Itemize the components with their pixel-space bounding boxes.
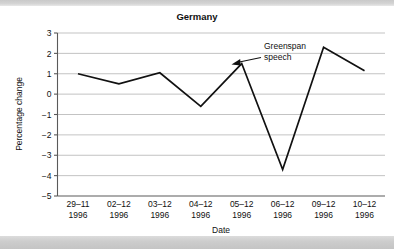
line-chart: Germany 3210−1−2−3−4−5 29–11199602–12199… xyxy=(0,0,394,249)
x-axis-title: Date xyxy=(212,225,230,235)
x-tick-label-year: 1996 xyxy=(314,210,333,220)
y-tick-label: 3 xyxy=(47,28,52,38)
annotation-arrow-shaft xyxy=(237,58,261,63)
y-tick-label: 1 xyxy=(47,69,52,79)
x-tick-label-year: 1996 xyxy=(232,210,251,220)
y-tick-label: 2 xyxy=(47,49,52,59)
y-axis-title: Percentage change xyxy=(14,77,24,151)
data-series-line xyxy=(78,47,365,169)
x-tick-labels-group: 29–11199602–12199603–12199604–12199605–1… xyxy=(66,199,376,220)
x-tick-label-year: 1996 xyxy=(69,210,88,220)
y-tick-label: −5 xyxy=(42,191,52,201)
y-tick-label: −4 xyxy=(42,171,52,181)
x-tick-label-date: 02–12 xyxy=(107,199,131,209)
x-tick-label-year: 1996 xyxy=(150,210,169,220)
annotation-arrow-head xyxy=(232,59,241,66)
y-tick-label: −2 xyxy=(42,130,52,140)
x-tick-label-date: 29–11 xyxy=(66,199,89,209)
annotation-text-line-1: Greenspan xyxy=(264,41,306,51)
x-tick-label-date: 09–12 xyxy=(312,199,336,209)
chart-figure: Germany 3210−1−2−3−4−5 29–11199602–12199… xyxy=(0,0,394,249)
x-tick-label-year: 1996 xyxy=(273,210,292,220)
chart-title: Germany xyxy=(176,11,218,22)
y-tick-label: −1 xyxy=(42,110,52,120)
annotation-text-line-2: speech xyxy=(264,52,292,62)
x-tick-label-date: 05–12 xyxy=(230,199,254,209)
x-tick-label-date: 03–12 xyxy=(148,199,172,209)
y-tick-labels-group: 3210−1−2−3−4−5 xyxy=(42,28,52,201)
x-tick-label-date: 10–12 xyxy=(353,199,377,209)
x-tick-label-date: 04–12 xyxy=(189,199,213,209)
x-tick-label-year: 1996 xyxy=(109,210,128,220)
gridlines-group xyxy=(58,33,386,196)
x-tick-label-year: 1996 xyxy=(191,210,210,220)
x-tick-label-date: 06–12 xyxy=(271,199,295,209)
y-tick-label: 0 xyxy=(47,89,52,99)
x-tick-label-year: 1996 xyxy=(355,210,374,220)
y-tick-label: −3 xyxy=(42,150,52,160)
